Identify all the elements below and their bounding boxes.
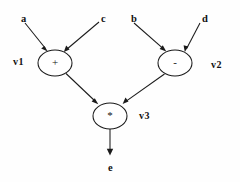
edge-d-to-v2 xyxy=(184,23,200,52)
edge-v1-to-v3 xyxy=(66,74,98,105)
diagram-canvas: + - * v1 v2 v3 a c b d e xyxy=(0,0,240,182)
graph-svg xyxy=(0,0,240,182)
node-v3-label: v3 xyxy=(139,111,150,121)
input-label-b: b xyxy=(131,14,137,24)
node-v3-operator: * xyxy=(100,110,120,121)
edge-v3-to-e xyxy=(107,129,113,156)
node-v2-operator: - xyxy=(165,57,185,68)
input-label-a: a xyxy=(21,14,26,24)
input-label-c: c xyxy=(101,14,106,24)
node-v2-label: v2 xyxy=(211,60,222,70)
node-v1-label: v1 xyxy=(13,57,24,67)
node-v1-operator: + xyxy=(45,57,65,68)
edge-b-to-v2 xyxy=(134,23,166,51)
input-label-d: d xyxy=(202,14,208,24)
output-label-e: e xyxy=(108,163,113,173)
edge-v2-to-v3 xyxy=(123,74,165,104)
edge-a-to-v1 xyxy=(25,23,48,52)
edge-c-to-v1 xyxy=(64,22,99,52)
